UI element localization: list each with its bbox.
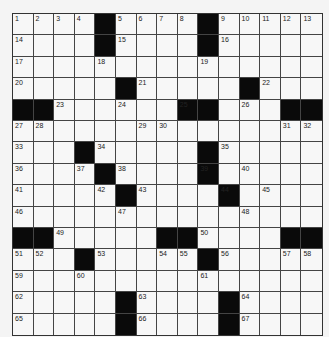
grid-cell[interactable]: 46 xyxy=(13,207,34,228)
grid-cell[interactable] xyxy=(34,271,55,292)
grid-cell[interactable]: 41 xyxy=(13,185,34,206)
grid-cell[interactable]: 52 xyxy=(34,249,55,270)
grid-cell[interactable] xyxy=(178,207,199,228)
grid-cell[interactable] xyxy=(281,35,302,56)
grid-cell[interactable] xyxy=(240,271,261,292)
grid-cell[interactable]: 48 xyxy=(240,207,261,228)
grid-cell[interactable]: 10 xyxy=(240,14,261,35)
grid-cell[interactable] xyxy=(75,292,96,313)
grid-cell[interactable]: 64 xyxy=(240,292,261,313)
grid-cell[interactable] xyxy=(178,292,199,313)
grid-cell[interactable] xyxy=(137,249,158,270)
grid-cell[interactable] xyxy=(95,207,116,228)
grid-cell[interactable] xyxy=(137,57,158,78)
grid-cell[interactable] xyxy=(116,271,137,292)
grid-cell[interactable] xyxy=(137,100,158,121)
grid-cell[interactable]: 22 xyxy=(260,78,281,99)
grid-cell[interactable] xyxy=(34,142,55,163)
grid-cell[interactable]: 54 xyxy=(157,249,178,270)
grid-cell[interactable] xyxy=(34,314,55,335)
grid-cell[interactable]: 42 xyxy=(95,185,116,206)
grid-cell[interactable] xyxy=(219,228,240,249)
grid-cell[interactable]: 23 xyxy=(54,100,75,121)
grid-cell[interactable] xyxy=(54,57,75,78)
grid-cell[interactable] xyxy=(260,100,281,121)
grid-cell[interactable] xyxy=(75,78,96,99)
grid-cell[interactable]: 62 xyxy=(13,292,34,313)
grid-cell[interactable]: 33 xyxy=(13,142,34,163)
grid-cell[interactable]: 16 xyxy=(219,35,240,56)
grid-cell[interactable] xyxy=(95,121,116,142)
grid-cell[interactable] xyxy=(54,121,75,142)
grid-cell[interactable] xyxy=(240,35,261,56)
grid-cell[interactable]: 30 xyxy=(157,121,178,142)
grid-cell[interactable] xyxy=(178,78,199,99)
grid-cell[interactable] xyxy=(198,121,219,142)
grid-cell[interactable] xyxy=(281,142,302,163)
grid-cell[interactable] xyxy=(116,228,137,249)
grid-cell[interactable] xyxy=(281,57,302,78)
grid-cell[interactable] xyxy=(260,314,281,335)
grid-cell[interactable]: 18 xyxy=(95,57,116,78)
grid-cell[interactable] xyxy=(260,207,281,228)
grid-cell[interactable] xyxy=(301,207,322,228)
grid-cell[interactable]: 66 xyxy=(137,314,158,335)
grid-cell[interactable] xyxy=(157,164,178,185)
grid-cell[interactable]: 53 xyxy=(95,249,116,270)
grid-cell[interactable] xyxy=(281,207,302,228)
grid-cell[interactable] xyxy=(301,57,322,78)
grid-cell[interactable] xyxy=(54,292,75,313)
grid-cell[interactable] xyxy=(301,78,322,99)
grid-cell[interactable] xyxy=(240,121,261,142)
grid-cell[interactable]: 59 xyxy=(13,271,34,292)
grid-cell[interactable] xyxy=(260,164,281,185)
grid-cell[interactable] xyxy=(34,207,55,228)
grid-cell[interactable] xyxy=(157,207,178,228)
grid-cell[interactable] xyxy=(260,249,281,270)
grid-cell[interactable]: 24 xyxy=(116,100,137,121)
grid-cell[interactable]: 43 xyxy=(137,185,158,206)
grid-cell[interactable] xyxy=(157,292,178,313)
grid-cell[interactable] xyxy=(54,271,75,292)
grid-cell[interactable] xyxy=(281,292,302,313)
grid-cell[interactable] xyxy=(75,185,96,206)
grid-cell[interactable]: 11 xyxy=(260,14,281,35)
grid-cell[interactable] xyxy=(219,78,240,99)
grid-cell[interactable] xyxy=(54,249,75,270)
grid-cell[interactable] xyxy=(54,207,75,228)
grid-cell[interactable] xyxy=(178,35,199,56)
grid-cell[interactable]: 27 xyxy=(13,121,34,142)
grid-cell[interactable] xyxy=(301,164,322,185)
grid-cell[interactable]: 31 xyxy=(281,121,302,142)
grid-cell[interactable] xyxy=(34,164,55,185)
grid-cell[interactable]: 50 xyxy=(198,228,219,249)
grid-cell[interactable] xyxy=(198,185,219,206)
grid-cell[interactable] xyxy=(260,142,281,163)
grid-cell[interactable]: 7 xyxy=(157,14,178,35)
grid-cell[interactable]: 65 xyxy=(13,314,34,335)
grid-cell[interactable]: 9 xyxy=(219,14,240,35)
grid-cell[interactable] xyxy=(240,57,261,78)
grid-cell[interactable] xyxy=(178,142,199,163)
grid-cell[interactable]: 5 xyxy=(116,14,137,35)
grid-cell[interactable] xyxy=(75,207,96,228)
grid-cell[interactable] xyxy=(34,57,55,78)
grid-cell[interactable] xyxy=(198,207,219,228)
grid-cell[interactable] xyxy=(157,185,178,206)
grid-cell[interactable] xyxy=(75,100,96,121)
grid-cell[interactable]: 67 xyxy=(240,314,261,335)
grid-cell[interactable] xyxy=(75,57,96,78)
grid-cell[interactable] xyxy=(178,314,199,335)
grid-cell[interactable]: 14 xyxy=(13,35,34,56)
grid-cell[interactable] xyxy=(281,314,302,335)
grid-cell[interactable] xyxy=(54,164,75,185)
grid-cell[interactable] xyxy=(219,121,240,142)
grid-cell[interactable] xyxy=(219,100,240,121)
grid-cell[interactable] xyxy=(157,314,178,335)
grid-cell[interactable]: 13 xyxy=(301,14,322,35)
grid-cell[interactable] xyxy=(178,121,199,142)
grid-cell[interactable] xyxy=(137,142,158,163)
grid-cell[interactable] xyxy=(157,100,178,121)
grid-cell[interactable]: 6 xyxy=(137,14,158,35)
grid-cell[interactable]: 37 xyxy=(75,164,96,185)
